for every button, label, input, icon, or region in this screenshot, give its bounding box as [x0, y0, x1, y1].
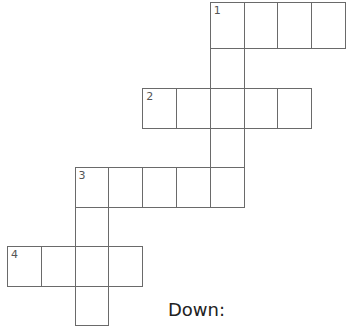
crossword-cell[interactable]: [210, 167, 245, 208]
crossword-cell[interactable]: 2: [142, 88, 177, 129]
crossword-cell[interactable]: [176, 167, 211, 208]
crossword-cell[interactable]: [108, 167, 143, 208]
crossword-cell[interactable]: 1: [210, 2, 245, 49]
crossword-cell[interactable]: [311, 2, 346, 49]
crossword-cell[interactable]: [210, 48, 245, 89]
crossword-cell[interactable]: [277, 88, 312, 129]
crossword-cell[interactable]: [75, 246, 110, 287]
crossword-cell[interactable]: [277, 2, 312, 49]
clue-number: 2: [146, 91, 153, 102]
crossword-cell[interactable]: [210, 88, 245, 129]
crossword-cell[interactable]: [244, 88, 279, 129]
clue-number: 4: [11, 249, 18, 260]
crossword-cell[interactable]: [210, 128, 245, 168]
crossword-cell[interactable]: [244, 2, 279, 49]
down-clues-heading: Down:: [168, 299, 225, 320]
crossword-cell[interactable]: [108, 246, 143, 287]
crossword-cell[interactable]: [41, 246, 76, 287]
clue-number: 3: [79, 170, 86, 181]
crossword-cell[interactable]: [176, 88, 211, 129]
crossword-cell[interactable]: 4: [7, 246, 42, 287]
clue-number: 1: [214, 5, 221, 16]
crossword-cell[interactable]: 3: [75, 167, 110, 208]
crossword-cell[interactable]: [142, 167, 177, 208]
crossword-cell[interactable]: [75, 286, 110, 326]
crossword-cell[interactable]: [75, 207, 110, 247]
